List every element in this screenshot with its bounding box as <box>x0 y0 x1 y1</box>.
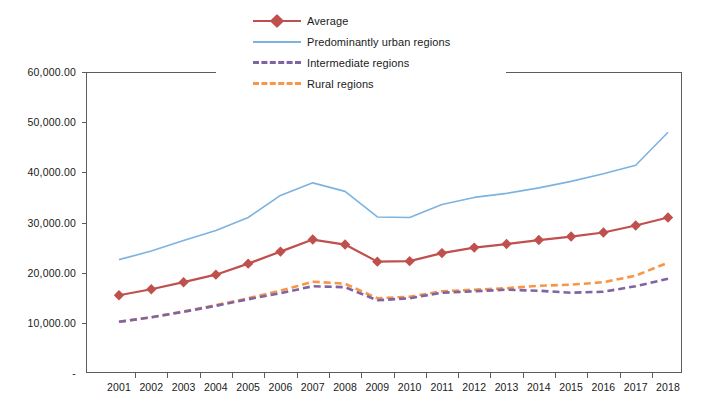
data-point-marker[interactable] <box>598 227 608 237</box>
x-tick-label: 2007 <box>301 381 325 393</box>
data-point-marker[interactable] <box>404 256 414 266</box>
x-tick-mark <box>361 373 362 378</box>
x-tick-label: 2018 <box>656 381 680 393</box>
x-tick-mark <box>426 373 427 378</box>
data-point-marker[interactable] <box>243 258 253 268</box>
x-tick-mark <box>523 373 524 378</box>
chart-canvas: Average Predominantly urban regions Inte… <box>0 0 702 412</box>
x-tick-label: 2013 <box>495 381 519 393</box>
legend-item-urban[interactable]: Predominantly urban regions <box>253 31 513 52</box>
x-tick-label: 2004 <box>204 381 228 393</box>
x-tick-mark <box>167 373 168 378</box>
x-tick-label: 2017 <box>624 381 648 393</box>
data-point-marker[interactable] <box>340 239 350 249</box>
data-point-marker[interactable] <box>114 290 124 300</box>
x-tick-mark <box>135 373 136 378</box>
y-tick-label: 40,000.00 <box>27 166 76 178</box>
x-tick-label: 2010 <box>398 381 422 393</box>
legend-label-urban: Predominantly urban regions <box>307 36 450 48</box>
data-point-marker[interactable] <box>501 239 511 249</box>
data-point-marker[interactable] <box>566 231 576 241</box>
data-point-marker[interactable] <box>631 220 641 230</box>
x-tick-mark <box>555 373 556 378</box>
x-tick-mark <box>490 373 491 378</box>
x-tick-mark <box>329 373 330 378</box>
x-tick-label: 2009 <box>365 381 389 393</box>
data-point-marker[interactable] <box>663 212 673 222</box>
data-point-marker[interactable] <box>469 242 479 252</box>
diamond-marker-icon <box>270 13 284 27</box>
series-line-predominantly-urban-regions <box>119 132 668 259</box>
x-tick-label: 2002 <box>139 381 163 393</box>
x-tick-label: 2011 <box>430 381 453 393</box>
x-tick-mark <box>652 373 653 378</box>
y-axis: -10,000.0020,000.0030,000.0040,000.0050,… <box>0 72 86 373</box>
y-tick-label: 60,000.00 <box>27 66 76 78</box>
plot-area <box>86 72 682 373</box>
legend-swatch-intermediate <box>253 57 301 69</box>
x-tick-label: 2015 <box>559 381 583 393</box>
x-tick-mark <box>394 373 395 378</box>
x-tick-mark <box>200 373 201 378</box>
data-point-marker[interactable] <box>146 284 156 294</box>
x-tick-mark <box>232 373 233 378</box>
y-tick-label: 20,000.00 <box>27 267 76 279</box>
legend-line-urban <box>253 41 301 43</box>
legend-item-average[interactable]: Average <box>253 10 513 31</box>
y-tick-label: 10,000.00 <box>27 317 76 329</box>
x-axis: 2001200220032004200520062007200820092010… <box>86 373 682 403</box>
legend-swatch-average <box>253 15 301 27</box>
data-point-marker[interactable] <box>275 246 285 256</box>
y-tick-label: 50,000.00 <box>27 116 76 128</box>
y-tick-label: - <box>72 367 76 379</box>
x-tick-label: 2008 <box>333 381 357 393</box>
x-tick-label: 2005 <box>236 381 260 393</box>
x-tick-mark <box>297 373 298 378</box>
x-tick-mark <box>587 373 588 378</box>
data-point-marker[interactable] <box>372 256 382 266</box>
legend-label-average: Average <box>307 15 348 27</box>
x-tick-label: 2014 <box>527 381 551 393</box>
series-line-intermediate-regions <box>119 279 668 322</box>
y-tick-label: 30,000.00 <box>27 217 76 229</box>
series-layer <box>86 72 682 373</box>
x-tick-label: 2012 <box>462 381 486 393</box>
legend-line-intermediate <box>253 61 301 64</box>
data-point-marker[interactable] <box>534 235 544 245</box>
data-point-marker[interactable] <box>437 248 447 258</box>
x-tick-mark <box>620 373 621 378</box>
data-point-marker[interactable] <box>178 277 188 287</box>
x-tick-label: 2006 <box>269 381 293 393</box>
x-tick-label: 2003 <box>172 381 196 393</box>
x-tick-mark <box>458 373 459 378</box>
legend-swatch-urban <box>253 36 301 48</box>
x-tick-label: 2001 <box>107 381 131 393</box>
x-tick-label: 2016 <box>592 381 616 393</box>
legend-label-intermediate: Intermediate regions <box>307 57 409 69</box>
data-point-marker[interactable] <box>211 269 221 279</box>
data-point-marker[interactable] <box>308 234 318 244</box>
x-tick-mark <box>264 373 265 378</box>
